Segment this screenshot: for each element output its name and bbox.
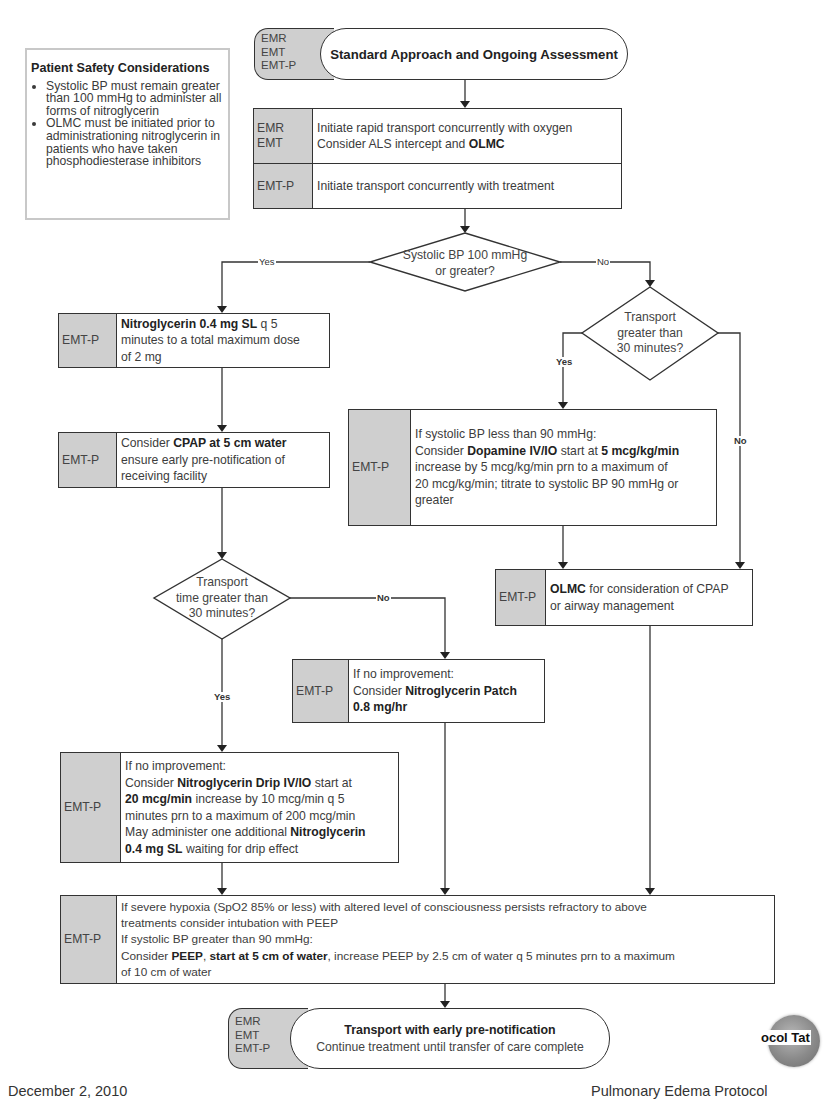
text-line: Consider CPAP at 5 cm water (121, 435, 287, 452)
decision-left-no-label: No (376, 593, 391, 603)
text-line: If no improvement: (353, 666, 517, 683)
text-line: 0.4 mg SL waiting for drip effect (125, 841, 366, 858)
text-line: If systolic BP less than 90 mmHg: (415, 426, 679, 443)
role-label: EMT-P (293, 660, 349, 722)
role-label: EMT-P (59, 433, 117, 487)
text-line: If no improvement: (125, 758, 366, 775)
decision-transport-right-text: Transport greater than 30 minutes? (600, 310, 700, 357)
start-title: Standard Approach and Ongoing Assessment (330, 47, 618, 62)
nitro-text: Nitroglycerin 0.4 mg SL q 5 minutes to a… (117, 314, 304, 367)
nitroglycerin-sl-box: EMT-P Nitroglycerin 0.4 mg SL q 5 minute… (58, 313, 330, 368)
nitroglycerin-drip-box: EMT-P If no improvement: Consider Nitrog… (60, 752, 399, 863)
text-line: May administer one additional Nitroglyce… (125, 824, 366, 841)
initial-row-emtp: Initiate transport concurrently with tre… (313, 164, 558, 208)
text-line: If severe hypoxia (SpO2 85% or less) wit… (121, 899, 675, 915)
patch-text: If no improvement: Consider Nitroglyceri… (349, 660, 521, 722)
role-label: EMT-P (349, 410, 411, 525)
initial-actions-box: EMR EMT Initiate rapid transport concurr… (253, 108, 622, 209)
text-line: Consider Nitroglycerin Patch (353, 683, 517, 700)
decision-right-yes-label: Yes (555, 357, 573, 367)
text-line: Consider Nitroglycerin Drip IV/IO start … (125, 775, 366, 792)
olmc-box: EMT-P OLMC for consideration of CPAP or … (495, 569, 753, 626)
text-line: 20 mcg/min increase by 10 mcg/min q 5 (125, 791, 366, 808)
nitroglycerin-patch-box: EMT-P If no improvement: Consider Nitrog… (292, 659, 545, 723)
peep-box: EMT-P If severe hypoxia (SpO2 85% or les… (60, 895, 775, 984)
cpap-text: Consider CPAP at 5 cm water ensure early… (117, 433, 291, 487)
text-line: of 2 mg (121, 349, 300, 366)
text-line: Nitroglycerin 0.4 mg SL q 5 (121, 316, 300, 333)
text-line: receiving facility (121, 468, 287, 485)
end-title: Transport with early pre-notification (344, 1022, 555, 1039)
decision-bp-text: Systolic BP 100 mmHg or greater? (395, 248, 535, 279)
text-line: of 10 cm of water (121, 964, 675, 980)
decision-bp-yes-label: Yes (258, 257, 276, 267)
role-label: EMT-P (254, 164, 313, 208)
end-terminal: EMR EMT EMT-P Transport with early pre-n… (228, 1008, 610, 1069)
peep-text: If severe hypoxia (SpO2 85% or less) wit… (117, 896, 679, 983)
olmc-text: OLMC for consideration of CPAP or airway… (546, 570, 733, 625)
start-terminal: EMR EMT EMT-P Standard Approach and Ongo… (254, 28, 628, 80)
role-label: EMT-P (496, 570, 546, 625)
text-line: ensure early pre-notification of (121, 452, 287, 469)
text-line: Consider Dopamine IV/IO start at 5 mcg/k… (415, 443, 679, 460)
decision-transport-left-text: Transport time greater than 30 minutes? (162, 575, 282, 622)
drip-text: If no improvement: Consider Nitroglyceri… (121, 753, 370, 862)
safety-item: Systolic BP must remain greater than 100… (46, 80, 222, 118)
text-line: minutes to a total maximum dose (121, 332, 300, 349)
text-line: Consider ALS intercept and OLMC (317, 136, 572, 153)
text-line: or airway management (550, 598, 729, 615)
text-line: minutes prn to a maximum of 200 mcg/min (125, 808, 366, 825)
decision-left-yes-label: Yes (213, 692, 231, 702)
safety-title: Patient Safety Considerations (31, 62, 222, 75)
end-subtitle: Continue treatment until transfer of car… (316, 1039, 584, 1056)
text-line: increase by 5 mcg/kg/min prn to a maximu… (415, 459, 679, 476)
text-line: treatments consider intubation with PEEP (121, 915, 675, 931)
safety-list: Systolic BP must remain greater than 100… (31, 80, 222, 168)
footer-date: December 2, 2010 (8, 1083, 127, 1099)
text-line: Initiate rapid transport concurrently wi… (317, 120, 572, 137)
text-line: Consider PEEP, start at 5 cm of water, i… (121, 948, 675, 964)
role-label: EMT-P (61, 896, 117, 983)
initial-row-emr-emt: Initiate rapid transport concurrently wi… (313, 109, 576, 163)
text-line: 0.8 mg/hr (353, 699, 517, 716)
role-label: EMT-P (59, 314, 117, 367)
decision-bp-no-label: No (596, 257, 610, 267)
text-line: 20 mcg/kg/min; titrate to systolic BP 90… (415, 476, 679, 493)
start-pill: Standard Approach and Ongoing Assessment (320, 28, 628, 80)
dopamine-box: EMT-P If systolic BP less than 90 mmHg: … (348, 409, 717, 526)
safety-item: OLMC must be initiated prior to administ… (46, 117, 222, 167)
text-line: Initiate transport concurrently with tre… (317, 178, 554, 195)
footer-protocol-title: Pulmonary Edema Protocol (591, 1083, 768, 1099)
text-line: greater (415, 492, 679, 509)
text-line: If systolic BP greater than 90 mmHg: (121, 931, 675, 947)
role-label: EMT-P (61, 753, 121, 862)
patient-safety-panel: Patient Safety Considerations Systolic B… (25, 48, 230, 220)
protocol-tab-logo-text: ocol Tat (760, 1030, 811, 1045)
end-pill: Transport with early pre-notification Co… (290, 1008, 610, 1069)
role-label: EMR EMT (254, 109, 313, 163)
dopamine-text: If systolic BP less than 90 mmHg: Consid… (411, 410, 683, 525)
text-line: OLMC for consideration of CPAP (550, 581, 729, 598)
cpap-box: EMT-P Consider CPAP at 5 cm water ensure… (58, 432, 330, 488)
decision-right-no-label: No (733, 436, 748, 446)
